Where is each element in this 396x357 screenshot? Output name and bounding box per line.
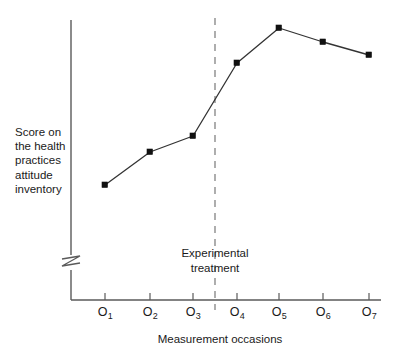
- x-axis-title: Measurement occasions: [100, 333, 340, 345]
- x-tick-label-5-sub: 5: [282, 311, 287, 321]
- x-tick-label-4-base: O: [230, 305, 240, 319]
- x-tick-label-4: O4: [217, 305, 257, 319]
- x-tick-label-3-base: O: [186, 305, 196, 319]
- experimental-treatment-label: Experimental treatment: [140, 246, 290, 275]
- x-tick-label-5: O5: [259, 305, 299, 319]
- experimental-treatment-label-line1: Experimental: [181, 247, 248, 259]
- x-tick-label-2-base: O: [143, 305, 153, 319]
- axis-break-icon: [62, 256, 80, 266]
- x-tick-label-3: O3: [173, 305, 213, 319]
- x-tick-label-7-base: O: [362, 305, 372, 319]
- chart-container: Score on the health practices attitude i…: [0, 0, 396, 357]
- data-point-o2: [147, 149, 153, 155]
- x-tick-label-6: O6: [303, 305, 343, 319]
- x-tick-label-1: O1: [85, 305, 125, 319]
- data-point-o4: [234, 60, 240, 66]
- data-point-o3: [190, 133, 196, 139]
- data-point-o6: [320, 39, 326, 45]
- x-tick-label-5-base: O: [272, 305, 282, 319]
- experimental-treatment-label-line2: treatment: [191, 262, 240, 274]
- data-point-o1: [102, 182, 108, 188]
- data-point-o7: [366, 52, 372, 58]
- y-axis-title: Score on the health practices attitude i…: [15, 125, 73, 196]
- x-tick-label-2: O2: [130, 305, 170, 319]
- x-tick-label-7-sub: 7: [372, 311, 377, 321]
- x-tick-label-2-sub: 2: [153, 311, 158, 321]
- x-tick-label-7: O7: [349, 305, 389, 319]
- x-tick-label-3-sub: 3: [196, 311, 201, 321]
- x-tick-label-6-sub: 6: [326, 311, 331, 321]
- x-tick-label-6-base: O: [316, 305, 326, 319]
- x-tick-label-1-base: O: [98, 305, 108, 319]
- data-point-o5: [276, 25, 282, 31]
- x-tick-label-1-sub: 1: [108, 311, 113, 321]
- x-tick-label-4-sub: 4: [240, 311, 245, 321]
- data-series-line: [105, 28, 369, 185]
